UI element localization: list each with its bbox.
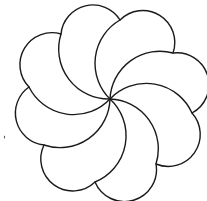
pinwheel-rosette — [0, 0, 207, 201]
stray-mark — [4, 135, 5, 138]
petal-outline — [41, 99, 126, 191]
petals — [15, 5, 207, 201]
petal-outline — [95, 99, 158, 201]
petal-outline — [110, 83, 200, 166]
petal-outline — [15, 87, 110, 148]
petal-outline — [110, 51, 207, 113]
petal-outline — [59, 5, 120, 99]
